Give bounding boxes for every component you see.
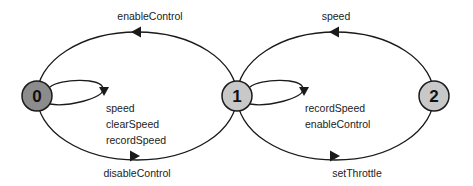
state-node-2[interactable]: 2 [419,81,449,111]
edge-1-to-2: speed [237,10,434,96]
self-loop-0-label-clearSpeed: clearSpeed [106,118,159,130]
state-diagram: enableControl disableControl speed clear… [0,0,473,186]
self-loop-0: speed clearSpeed recordSpeed [50,80,166,146]
self-loop-0-label-speed: speed [106,102,135,114]
edge-label-speed: speed [322,10,351,22]
edge-label-enableControl: enableControl [117,10,182,22]
self-loop-0-label-recordSpeed: recordSpeed [106,134,166,146]
edge-0-to-1: enableControl [37,10,237,96]
node-label: 0 [32,87,41,106]
edge-label-disableControl: disableControl [103,167,170,179]
arrowhead-right-icon [329,27,339,38]
state-node-1[interactable]: 1 [222,81,252,111]
arrowhead-right-icon [131,27,141,38]
self-loop-1-label-recordSpeed: recordSpeed [305,102,365,114]
self-loop-1: recordSpeed enableControl [250,80,370,130]
node-label: 2 [429,87,438,106]
state-node-0[interactable]: 0 [22,81,52,111]
self-loop-1-label-enableControl: enableControl [305,118,370,130]
edge-label-setThrottle: setThrottle [332,167,382,179]
node-label: 1 [232,87,241,106]
